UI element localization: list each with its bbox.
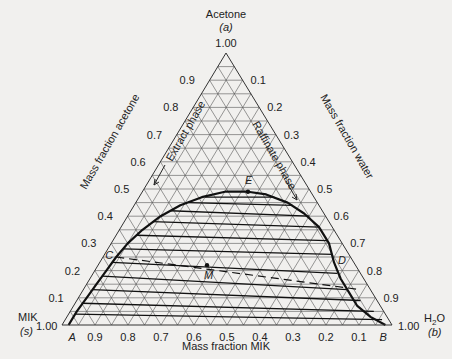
svg-text:0.8: 0.8 bbox=[163, 101, 178, 113]
vertex-top-name: Acetone bbox=[206, 8, 246, 20]
svg-text:0.1: 0.1 bbox=[251, 74, 266, 86]
vertex-right-symbol: (b) bbox=[428, 326, 442, 338]
vertex-left-value: 1.00 bbox=[36, 320, 57, 332]
svg-text:0.6: 0.6 bbox=[334, 210, 349, 222]
vertex-top-symbol: (a) bbox=[219, 21, 233, 33]
svg-text:0.1: 0.1 bbox=[351, 331, 366, 343]
axis-title-left: Mass fraction acetone bbox=[77, 92, 141, 191]
point-label-B: B bbox=[379, 331, 386, 343]
svg-text:0.9: 0.9 bbox=[180, 74, 195, 86]
svg-text:0.4: 0.4 bbox=[300, 156, 315, 168]
point-label-D: D bbox=[338, 254, 346, 266]
point-label-A: A bbox=[68, 331, 76, 343]
point-label-M: M bbox=[204, 269, 214, 281]
svg-text:0.3: 0.3 bbox=[284, 129, 299, 141]
vertex-right-name: H2O bbox=[424, 312, 445, 327]
svg-text:0.5: 0.5 bbox=[114, 183, 129, 195]
svg-text:0.7: 0.7 bbox=[147, 129, 162, 141]
svg-text:0.7: 0.7 bbox=[350, 237, 365, 249]
tick-labels: 0.90.80.70.60.50.40.30.20.10.10.20.30.40… bbox=[48, 74, 398, 343]
svg-text:0.4: 0.4 bbox=[98, 210, 113, 222]
point-label-E: E bbox=[245, 174, 253, 186]
svg-text:0.2: 0.2 bbox=[267, 101, 282, 113]
svg-text:0.8: 0.8 bbox=[367, 265, 382, 277]
ternary-diagram: 0.90.80.70.60.50.40.30.20.10.10.20.30.40… bbox=[0, 0, 452, 359]
svg-text:0.7: 0.7 bbox=[153, 331, 168, 343]
point-label-C: C bbox=[105, 249, 113, 261]
svg-text:0.1: 0.1 bbox=[48, 292, 63, 304]
svg-text:0.2: 0.2 bbox=[318, 331, 333, 343]
svg-text:0.3: 0.3 bbox=[81, 237, 96, 249]
svg-text:0.6: 0.6 bbox=[130, 156, 145, 168]
svg-text:0.5: 0.5 bbox=[317, 183, 332, 195]
vertex-top-value: 1.00 bbox=[215, 37, 236, 49]
axis-title-bottom: Mass fraction MIK bbox=[182, 340, 271, 352]
svg-text:0.2: 0.2 bbox=[65, 265, 80, 277]
vertex-right-value: 1.00 bbox=[398, 320, 419, 332]
svg-text:0.9: 0.9 bbox=[87, 331, 102, 343]
svg-text:0.3: 0.3 bbox=[285, 331, 300, 343]
svg-text:0.8: 0.8 bbox=[120, 331, 135, 343]
vertex-left-symbol: (s) bbox=[20, 325, 33, 337]
extract-arrow-icon bbox=[154, 165, 165, 185]
svg-text:0.9: 0.9 bbox=[383, 292, 398, 304]
axis-title-right: Mass fraction water bbox=[318, 92, 376, 181]
